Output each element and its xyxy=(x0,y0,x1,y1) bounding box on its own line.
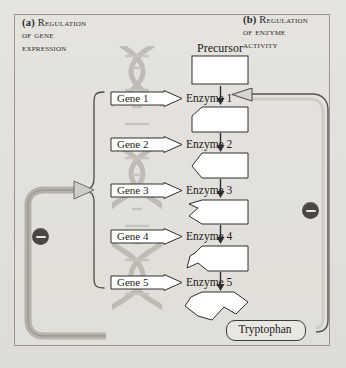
gene-label-3: Gene 3 xyxy=(117,182,148,199)
panel-b-line1: Regulation xyxy=(259,14,308,25)
gene-label-1: Gene 1 xyxy=(117,90,148,107)
figure-canvas: (a) Regulation of gene expression (b) Re… xyxy=(0,0,346,368)
gene-label-2: Gene 2 xyxy=(117,136,148,153)
inhibition-minus-gene xyxy=(32,228,49,245)
panel-b-marker: (b) xyxy=(243,14,256,25)
panel-a-marker: (a) xyxy=(22,17,35,28)
feedback-path-gene-expression xyxy=(18,168,110,340)
gene-label-5: Gene 5 xyxy=(117,274,148,291)
precursor-label: Precursor xyxy=(180,41,260,56)
gene-label-4: Gene 4 xyxy=(117,228,148,245)
panel-a-line1: Regulation xyxy=(38,17,87,28)
panel-a-line2: of gene xyxy=(22,29,132,41)
panel-b-line2: of enzyme xyxy=(243,26,343,38)
molecule-precursor xyxy=(191,55,249,85)
inhibition-minus-enzyme xyxy=(302,202,319,219)
